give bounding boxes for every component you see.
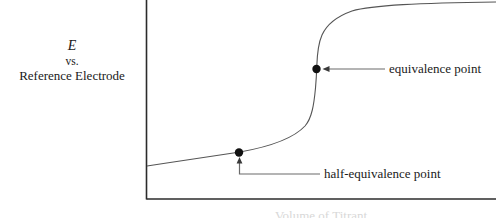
equivalence-point-marker [312, 65, 320, 73]
y-axis-label: E vs. Reference Electrode [4, 38, 140, 83]
titration-curve-figure: E vs. Reference Electrode equivalence po… [0, 0, 496, 218]
y-axis-label-symbol: E [4, 38, 140, 55]
half-equivalence-arrow-head-icon [237, 157, 243, 164]
titration-curve [147, 2, 496, 166]
plot-area [0, 0, 496, 218]
y-axis-label-reference: Reference Electrode [4, 68, 140, 83]
equivalence-point-label: equivalence point [389, 62, 481, 75]
half-equivalence-leader-line [240, 161, 321, 174]
half-equivalence-point-label: half-equivalence point [324, 167, 441, 180]
half-equivalence-point-marker [235, 148, 243, 156]
equivalence-arrow-head-icon [323, 66, 330, 72]
x-axis-label: Volume of Titrant [146, 208, 496, 218]
y-axis-label-vs: vs. [4, 55, 140, 69]
